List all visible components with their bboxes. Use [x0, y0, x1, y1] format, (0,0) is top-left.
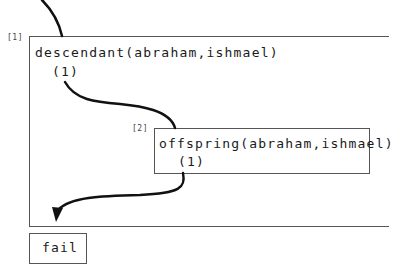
entry-arrow-line: [42, 0, 62, 36]
call-arrow-line: [65, 82, 175, 128]
fail-arrow-line: [58, 173, 184, 210]
fail-arrowhead-icon: [52, 207, 63, 222]
